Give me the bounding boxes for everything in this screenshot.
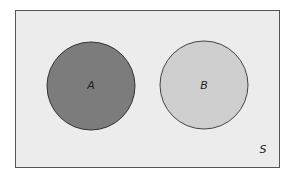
venn-diagram: A B S bbox=[0, 0, 294, 183]
universe-label: S bbox=[260, 143, 267, 156]
set-b-label: B bbox=[200, 79, 208, 92]
set-a-label: A bbox=[86, 79, 95, 92]
